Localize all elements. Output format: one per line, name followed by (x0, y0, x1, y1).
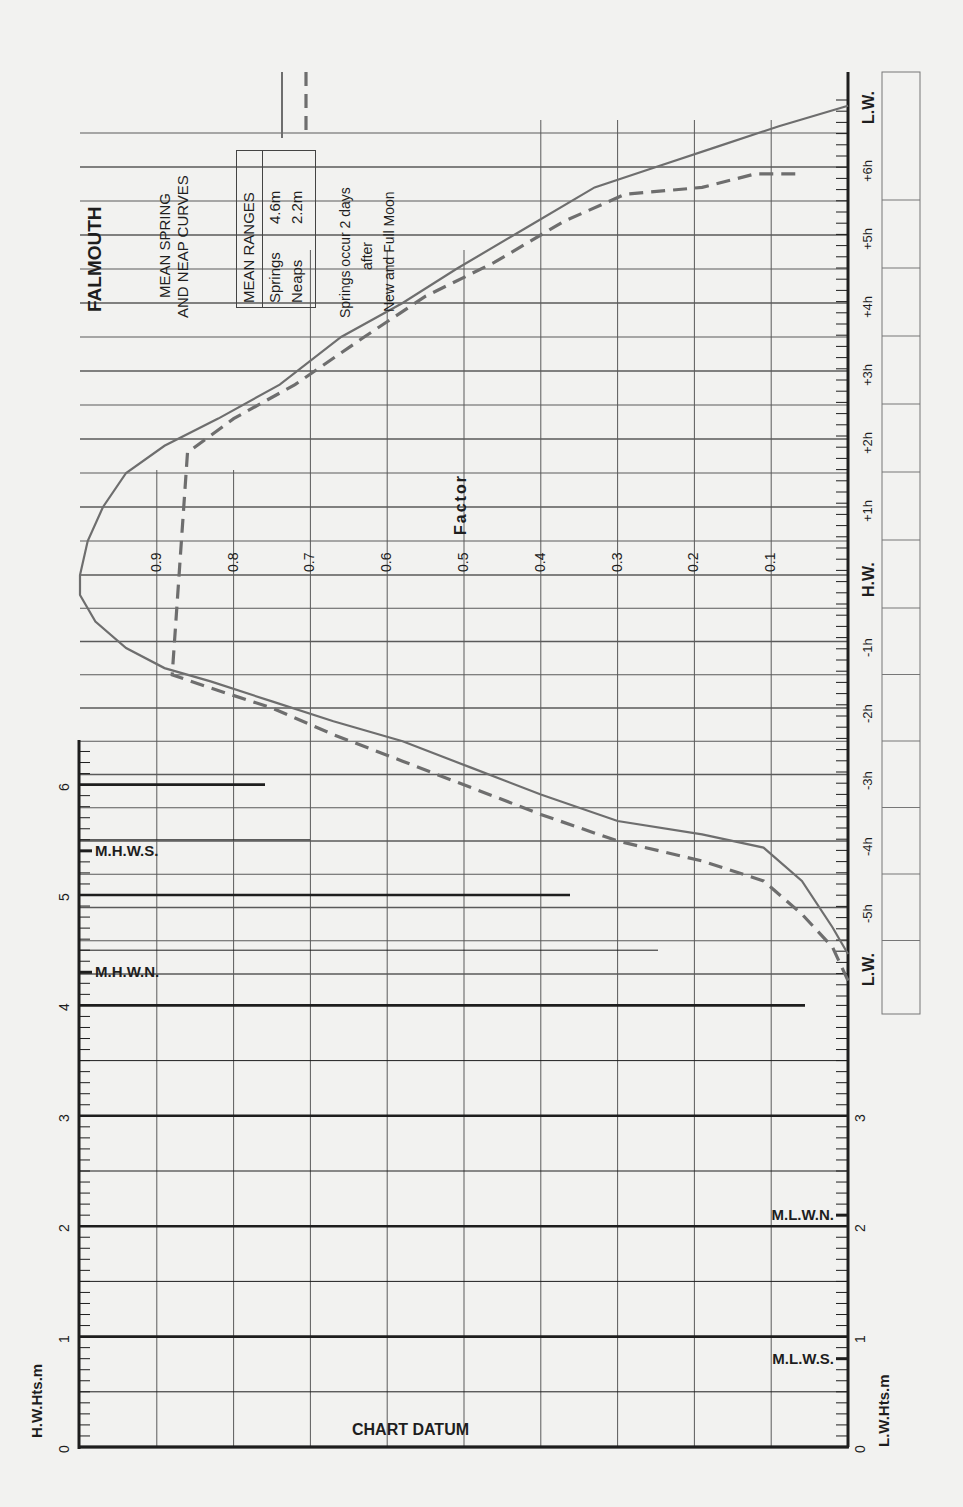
time-tick-label: H.W. (860, 562, 878, 597)
subtitle-line1: MEAN SPRING (156, 193, 173, 298)
subtitle-line2: AND NEAP CURVES (174, 175, 191, 318)
legend-header: MEAN RANGES (240, 192, 257, 303)
hw-mark-label: M.H.W.S. (95, 842, 158, 859)
lw-height-tick-label: 3 (852, 1114, 868, 1122)
time-tick-label: +2h (860, 432, 875, 454)
factor-label: Factor (452, 474, 470, 535)
factor-tick-label: 0.7 (301, 553, 317, 572)
time-tick-label: -4h (860, 837, 875, 856)
time-tick-label: -5h (860, 904, 875, 923)
lw-height-tick-label: 2 (852, 1224, 868, 1232)
time-tick-label: +1h (860, 500, 875, 522)
note-line3: New and Full Moon (381, 191, 397, 312)
hw-height-tick-label: 2 (56, 1224, 72, 1232)
time-tick-label: +3h (860, 364, 875, 386)
note-line2: after (359, 242, 375, 270)
factor-tick-label: 0.9 (148, 553, 164, 572)
note-line1: Springs occur 2 days (337, 187, 353, 318)
time-tick-label: -1h (860, 638, 875, 657)
hw-height-tick-label: 6 (56, 783, 72, 791)
legend-divider (262, 150, 263, 307)
time-tick-label: L.W. (860, 953, 878, 986)
hw-height-tick-label: 5 (56, 893, 72, 901)
time-tick-label: L.W. (860, 92, 878, 125)
time-strip (882, 72, 920, 1014)
legend-springs-label: Springs (266, 252, 283, 303)
time-tick-label: -3h (860, 771, 875, 790)
hw-height-tick-label: 1 (56, 1335, 72, 1343)
legend-springs-value: 4.6m (266, 191, 283, 224)
axes (79, 72, 920, 1449)
hw-mark-label: M.H.W.N. (95, 963, 159, 980)
time-tick-label: -2h (860, 704, 875, 723)
hw-height-tick-label: 3 (56, 1114, 72, 1122)
chart-datum-label: CHART DATUM (352, 1421, 469, 1439)
tidal-curve-chart (0, 0, 963, 1507)
hw-axis-label: H.W.Hts.m (28, 1364, 45, 1438)
lw-height-tick-label: 1 (852, 1335, 868, 1343)
lw-height-tick-label: 0 (852, 1445, 868, 1453)
factor-tick-label: 0.6 (378, 553, 394, 572)
chart-title: FALMOUTH (84, 206, 106, 312)
factor-tick-label: 0.3 (609, 553, 625, 572)
factor-tick-label: 0.4 (532, 553, 548, 572)
hw-height-tick-label: 0 (56, 1445, 72, 1453)
time-tick-label: +5h (860, 228, 875, 250)
legend-neaps-label: Neaps (288, 260, 305, 303)
lw-axis-label: L.W.Hts.m (875, 1374, 892, 1447)
factor-tick-label: 0.8 (225, 553, 241, 572)
time-tick-label: +6h (860, 160, 875, 182)
time-tick-label: +4h (860, 296, 875, 318)
legend-lines (282, 72, 306, 138)
factor-tick-label: 0.1 (762, 553, 778, 572)
factor-tick-label: 0.5 (455, 553, 471, 572)
factor-tick-label: 0.2 (685, 553, 701, 572)
legend-neaps-value: 2.2m (288, 191, 305, 224)
lw-mark-label: M.L.W.S. (772, 1350, 834, 1367)
lw-mark-label: M.L.W.N. (772, 1206, 835, 1223)
hw-height-tick-label: 4 (56, 1004, 72, 1012)
